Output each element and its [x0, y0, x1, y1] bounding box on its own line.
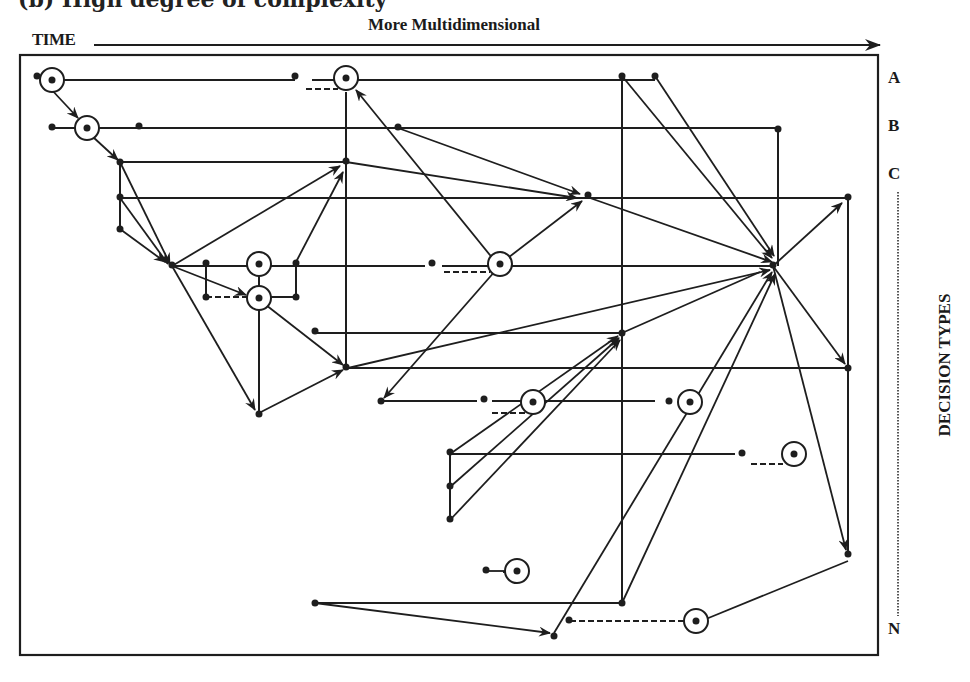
- flow-arrow: [622, 76, 772, 258]
- event-dot: [378, 398, 385, 405]
- event-dot: [312, 328, 319, 335]
- decision-node-center-dot: [514, 568, 521, 575]
- flow-arrow: [773, 266, 846, 550]
- event-dot: [845, 551, 852, 558]
- decision-node-center-dot: [530, 399, 537, 406]
- flow-arrow: [266, 305, 343, 365]
- event-dot: [117, 159, 124, 166]
- flow-arrow: [315, 603, 550, 633]
- flow-arrow: [356, 90, 494, 260]
- event-dot: [770, 262, 777, 269]
- event-dot: [845, 194, 852, 201]
- decision-node-center-dot: [497, 261, 504, 268]
- event-dot: [483, 567, 490, 574]
- decision-node-center-dot: [687, 399, 694, 406]
- decision-node-center-dot: [256, 261, 263, 268]
- decision-node-center-dot: [791, 451, 798, 458]
- event-dot: [585, 192, 592, 199]
- event-dot: [293, 260, 300, 267]
- event-dot: [447, 449, 454, 456]
- flow-arrow: [348, 270, 770, 368]
- event-dot: [447, 483, 454, 490]
- event-dot: [447, 516, 454, 523]
- dashed-connector-lines: [206, 89, 783, 621]
- decision-node-center-dot: [49, 77, 56, 84]
- event-dot: [739, 450, 746, 457]
- event-dot: [343, 158, 350, 165]
- event-dot: [117, 226, 124, 233]
- decision-node-circles: [40, 66, 806, 633]
- flow-arrow: [259, 370, 343, 413]
- event-dot: [169, 262, 176, 269]
- flow-arrow: [500, 201, 582, 264]
- event-dot: [845, 365, 852, 372]
- plain-segment: [622, 272, 760, 333]
- event-dot: [666, 398, 673, 405]
- event-dot: [117, 194, 124, 201]
- event-dot: [34, 73, 41, 80]
- decision-node-center-dot: [343, 75, 350, 82]
- event-dot: [775, 126, 782, 133]
- plain-segment: [706, 561, 848, 619]
- event-dot: [343, 364, 350, 371]
- event-dot: [619, 600, 626, 607]
- flow-arrow: [120, 162, 170, 264]
- flow-arrow: [120, 229, 165, 262]
- horizontal-decision-lines: [45, 80, 848, 603]
- flow-arrow: [120, 198, 168, 264]
- event-dot: [481, 396, 488, 403]
- flow-arrow: [93, 137, 118, 160]
- event-dot: [652, 73, 659, 80]
- event-dot: [203, 260, 210, 267]
- flow-arrow: [773, 266, 845, 364]
- decision-flow-diagram: [0, 0, 970, 682]
- event-dot: [429, 260, 436, 267]
- flow-arrow: [172, 266, 255, 410]
- flow-arrow: [172, 266, 246, 295]
- diagram-frame: [20, 55, 878, 655]
- decision-node-center-dot: [84, 125, 91, 132]
- flow-arrow: [172, 166, 340, 266]
- event-dot: [256, 411, 263, 418]
- event-dot: [395, 124, 402, 131]
- event-dot: [551, 633, 558, 640]
- vertical-connector-lines: [120, 76, 848, 603]
- flow-arrow: [590, 198, 772, 262]
- flow-arrow: [655, 76, 774, 256]
- event-dot: [619, 73, 626, 80]
- decision-node-center-dot: [256, 295, 263, 302]
- event-dot: [566, 617, 573, 624]
- event-dot: [312, 600, 319, 607]
- event-dot: [203, 294, 210, 301]
- event-dot: [136, 123, 143, 130]
- event-dots: [34, 73, 852, 640]
- directed-flow-arrows: [50, 76, 846, 633]
- event-dot: [292, 73, 299, 80]
- flow-arrow: [773, 203, 842, 266]
- decision-node-center-dot: [693, 618, 700, 625]
- event-dot: [49, 124, 56, 131]
- event-dot: [293, 294, 300, 301]
- flow-arrow: [296, 172, 343, 262]
- event-dot: [619, 330, 626, 337]
